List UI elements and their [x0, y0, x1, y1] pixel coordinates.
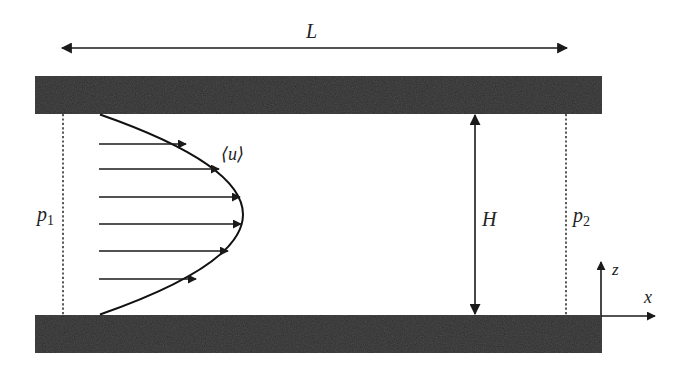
- height-dimension: H: [475, 115, 498, 314]
- length-dimension: L: [62, 20, 567, 48]
- top-plate: [35, 76, 602, 114]
- velocity-label: ⟨u⟩: [221, 144, 244, 164]
- inlet-pressure-label: p1: [35, 203, 54, 228]
- z-axis-label: z: [611, 260, 619, 279]
- length-label: L: [305, 20, 317, 42]
- coordinate-axes: z x: [601, 260, 655, 316]
- outlet-pressure-label: p2: [571, 204, 590, 229]
- channel-flow-diagram: L p1 p2 ⟨u⟩ H z x: [0, 0, 685, 374]
- velocity-arrows: [99, 144, 241, 279]
- x-axis-label: x: [643, 287, 652, 307]
- height-label: H: [481, 208, 498, 230]
- bottom-plate: [35, 315, 602, 353]
